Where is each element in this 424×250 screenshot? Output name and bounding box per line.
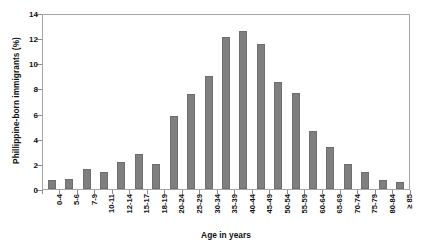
x-label-slot: 35-39 bbox=[217, 194, 235, 228]
bar-slot bbox=[78, 15, 95, 189]
x-axis-tick-labels: 0-45-67-910-1112-1415-1718-1920-2425-293… bbox=[42, 194, 410, 228]
x-label-slot: 75-79 bbox=[358, 194, 376, 228]
bar-slot bbox=[374, 15, 391, 189]
bar bbox=[344, 164, 352, 189]
bar bbox=[396, 182, 404, 189]
bar-slot bbox=[391, 15, 408, 189]
bar-slot bbox=[60, 15, 77, 189]
bar bbox=[152, 164, 160, 189]
y-tick-label: 2 bbox=[12, 160, 38, 169]
x-label-slot: 15-17 bbox=[130, 194, 148, 228]
bar bbox=[257, 44, 265, 189]
x-label-slot: 80-84 bbox=[375, 194, 393, 228]
bar bbox=[100, 172, 108, 189]
x-label-slot: 70-74 bbox=[340, 194, 358, 228]
bar bbox=[65, 179, 73, 189]
bar-slot bbox=[217, 15, 234, 189]
bar bbox=[187, 94, 195, 189]
x-tick-label: ≥ 85 bbox=[405, 194, 414, 209]
bar bbox=[48, 180, 56, 189]
x-label-slot: 18-19 bbox=[147, 194, 165, 228]
x-label-slot: ≥ 85 bbox=[393, 194, 411, 228]
bar bbox=[83, 169, 91, 189]
x-label-slot: 45-49 bbox=[252, 194, 270, 228]
x-label-slot: 0-4 bbox=[42, 194, 60, 228]
y-tick-label: 12 bbox=[12, 35, 38, 44]
x-label-slot: 40-44 bbox=[235, 194, 253, 228]
bar-series bbox=[43, 15, 409, 189]
y-tick-label: 4 bbox=[12, 135, 38, 144]
bar-slot bbox=[357, 15, 374, 189]
bar-slot bbox=[322, 15, 339, 189]
bar bbox=[379, 180, 387, 189]
bar bbox=[274, 82, 282, 189]
bar-slot bbox=[287, 15, 304, 189]
bar bbox=[170, 116, 178, 189]
bar-slot bbox=[269, 15, 286, 189]
plot-area bbox=[42, 14, 410, 190]
x-label-slot: 50-54 bbox=[270, 194, 288, 228]
bar-slot bbox=[339, 15, 356, 189]
bar-slot bbox=[235, 15, 252, 189]
x-label-slot: 7-9 bbox=[77, 194, 95, 228]
x-label-slot: 30-34 bbox=[200, 194, 218, 228]
x-label-slot: 12-14 bbox=[112, 194, 130, 228]
bar-slot bbox=[113, 15, 130, 189]
x-label-slot: 65-69 bbox=[323, 194, 341, 228]
bar-slot bbox=[130, 15, 147, 189]
x-label-slot: 60-64 bbox=[305, 194, 323, 228]
x-label-slot: 20-24 bbox=[165, 194, 183, 228]
bar bbox=[222, 37, 230, 189]
bar bbox=[205, 76, 213, 189]
x-label-slot: 55-59 bbox=[287, 194, 305, 228]
y-tick-label: 8 bbox=[12, 85, 38, 94]
bar bbox=[117, 162, 125, 189]
x-label-slot: 5-6 bbox=[60, 194, 78, 228]
bar-chart: Phillippine-born immigrants (%) 02468101… bbox=[0, 0, 424, 250]
bar-slot bbox=[165, 15, 182, 189]
bar-slot bbox=[304, 15, 321, 189]
x-label-slot: 10-11 bbox=[95, 194, 113, 228]
y-tick-label: 14 bbox=[12, 10, 38, 19]
bar-slot bbox=[43, 15, 60, 189]
bar bbox=[135, 154, 143, 189]
bar bbox=[309, 131, 317, 189]
bar bbox=[292, 93, 300, 189]
bar-slot bbox=[95, 15, 112, 189]
y-tick-label: 10 bbox=[12, 60, 38, 69]
bar-slot bbox=[252, 15, 269, 189]
bar-slot bbox=[200, 15, 217, 189]
y-tick-label: 6 bbox=[12, 110, 38, 119]
bar-slot bbox=[182, 15, 199, 189]
x-axis-title: Age in years bbox=[42, 230, 410, 240]
x-label-slot: 25-29 bbox=[182, 194, 200, 228]
y-tick-label: 0 bbox=[12, 186, 38, 195]
bar bbox=[326, 147, 334, 189]
bar bbox=[361, 172, 369, 189]
bar bbox=[239, 31, 247, 189]
bar-slot bbox=[148, 15, 165, 189]
